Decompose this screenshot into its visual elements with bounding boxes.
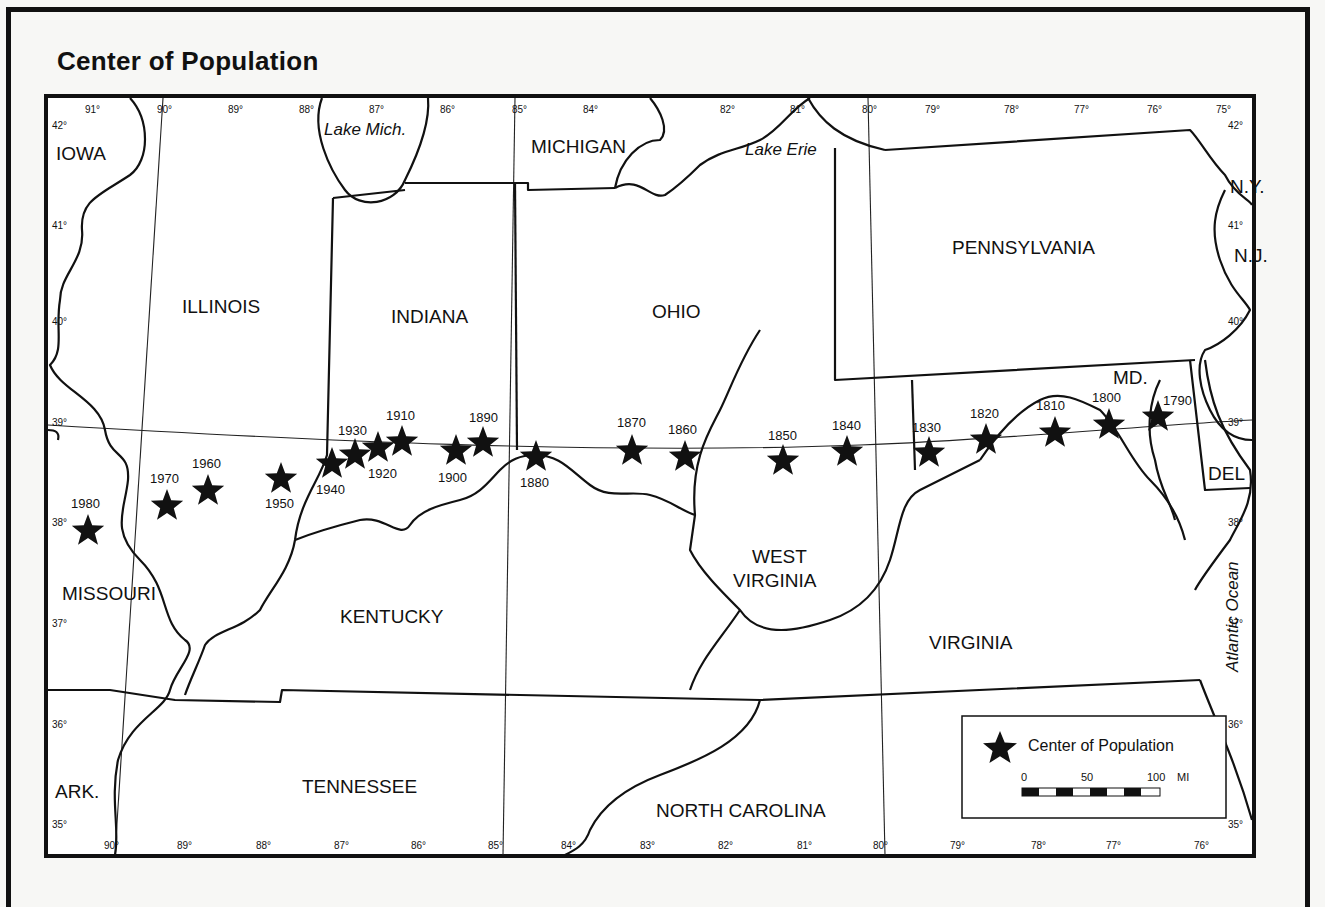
year-label: 1880: [520, 475, 549, 490]
lat-tick-right: 40°: [1228, 316, 1243, 327]
lat-tick-right: 37°: [1228, 618, 1243, 629]
label-lake-mich: Lake Mich.: [324, 120, 406, 139]
lat-tick-left: 37°: [52, 618, 67, 629]
lat-tick-right: 42°: [1228, 120, 1243, 131]
lon-tick-top: 76°: [1147, 104, 1162, 115]
lon-tick-bottom: 87°: [334, 840, 349, 851]
lat-tick-left: 35°: [52, 819, 67, 830]
lon-tick-bottom: 77°: [1106, 840, 1121, 851]
lat-tick-right: 35°: [1228, 819, 1243, 830]
lon-tick-bottom: 76°: [1194, 840, 1209, 851]
label-indiana: INDIANA: [391, 306, 468, 327]
lon-tick-bottom: 79°: [950, 840, 965, 851]
lat-tick-left: 38°: [52, 517, 67, 528]
scale-zero: 0: [1021, 771, 1027, 783]
legend-label: Center of Population: [1028, 737, 1174, 754]
legend-box: [962, 716, 1226, 818]
label-iowa: IOWA: [56, 143, 106, 164]
lon-tick-bottom: 88°: [256, 840, 271, 851]
lon-tick-top: 77°: [1074, 104, 1089, 115]
label-illinois: ILLINOIS: [182, 296, 260, 317]
lon-tick-top: 84°: [583, 104, 598, 115]
year-label: 1920: [368, 466, 397, 481]
year-label: 1950: [265, 496, 294, 511]
year-label: 1910: [386, 408, 415, 423]
lon-tick-bottom: 83°: [640, 840, 655, 851]
label-ark: ARK.: [55, 781, 99, 802]
label-north-carolina: NORTH CAROLINA: [656, 800, 826, 821]
lon-tick-bottom: 80°: [873, 840, 888, 851]
lon-tick-top: 81°: [790, 104, 805, 115]
legend: Center of Population 0 50 100 MI: [962, 716, 1226, 818]
label-tennessee: TENNESSEE: [302, 776, 417, 797]
lon-tick-top: 78°: [1004, 104, 1019, 115]
lon-tick-bottom: 84°: [561, 840, 576, 851]
label-nj: N.J.: [1234, 245, 1268, 266]
label-lake-erie: Lake Erie: [745, 140, 817, 159]
year-label: 1850: [768, 428, 797, 443]
lon-tick-bottom: 78°: [1031, 840, 1046, 851]
label-missouri: MISSOURI: [62, 583, 156, 604]
lon-tick-bottom: 89°: [177, 840, 192, 851]
year-label: 1930: [338, 423, 367, 438]
lon-tick-bottom: 90°: [104, 840, 119, 851]
lon-tick-top: 75°: [1216, 104, 1231, 115]
lat-tick-right: 38°: [1228, 517, 1243, 528]
year-label: 1830: [912, 420, 941, 435]
lon-tick-top: 82°: [720, 104, 735, 115]
year-label: 1940: [316, 482, 345, 497]
lat-tick-left: 36°: [52, 719, 67, 730]
lon-tick-bottom: 86°: [411, 840, 426, 851]
year-label: 1980: [71, 496, 100, 511]
year-label: 1820: [970, 406, 999, 421]
lat-tick-right: 41°: [1228, 220, 1243, 231]
label-pennsylvania: PENNSYLVANIA: [952, 237, 1095, 258]
year-label: 1890: [469, 410, 498, 425]
year-label: 1960: [192, 456, 221, 471]
lat-tick-left: 41°: [52, 220, 67, 231]
label-del: DEL: [1208, 463, 1245, 484]
lon-tick-bottom: 81°: [797, 840, 812, 851]
label-ohio: OHIO: [652, 301, 701, 322]
lon-tick-bottom: 82°: [718, 840, 733, 851]
year-label: 1790: [1163, 393, 1192, 408]
lon-tick-top: 85°: [512, 104, 527, 115]
lon-tick-top: 90°: [157, 104, 172, 115]
scale-bar: [1022, 788, 1160, 796]
label-ny: N.Y.: [1230, 176, 1265, 197]
label-md: MD.: [1113, 367, 1148, 388]
lon-tick-top: 91°: [85, 104, 100, 115]
label-west-virginia-2: VIRGINIA: [733, 570, 817, 591]
year-label: 1800: [1092, 390, 1121, 405]
year-label: 1810: [1036, 398, 1065, 413]
label-west-virginia-1: WEST: [752, 546, 807, 567]
year-label: 1900: [438, 470, 467, 485]
year-label: 1840: [832, 418, 861, 433]
scale-unit: MI: [1177, 771, 1189, 783]
label-michigan: MICHIGAN: [531, 136, 626, 157]
year-label: 1860: [668, 422, 697, 437]
lon-tick-top: 86°: [440, 104, 455, 115]
lat-tick-left: 42°: [52, 120, 67, 131]
lat-tick-right: 39°: [1228, 417, 1243, 428]
lon-tick-top: 79°: [925, 104, 940, 115]
year-label: 1970: [150, 471, 179, 486]
lon-tick-top: 87°: [369, 104, 384, 115]
year-label: 1870: [617, 415, 646, 430]
lon-tick-top: 89°: [228, 104, 243, 115]
scale-hundred: 100: [1147, 771, 1165, 783]
lon-tick-top: 88°: [299, 104, 314, 115]
lat-tick-right: 36°: [1228, 719, 1243, 730]
lon-tick-bottom: 85°: [488, 840, 503, 851]
label-kentucky: KENTUCKY: [340, 606, 444, 627]
lat-tick-left: 39°: [52, 417, 67, 428]
label-virginia: VIRGINIA: [929, 632, 1013, 653]
lat-tick-left: 40°: [52, 316, 67, 327]
lon-tick-top: 80°: [862, 104, 877, 115]
scale-fifty: 50: [1081, 771, 1093, 783]
